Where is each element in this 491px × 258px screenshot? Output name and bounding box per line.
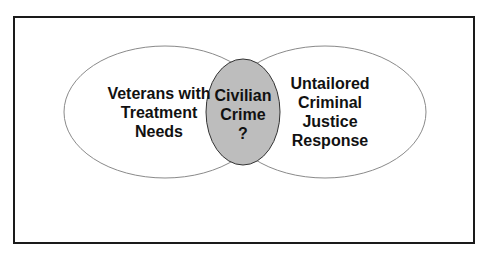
label-line: ?	[203, 124, 283, 143]
label-line: Veterans with	[100, 84, 218, 103]
label-line: Criminal	[275, 93, 385, 112]
label-line: Untailored	[275, 74, 385, 93]
label-line: Civilian	[203, 86, 283, 105]
right-circle-label: Untailored Criminal Justice Response	[275, 74, 385, 150]
label-line: Needs	[100, 122, 218, 141]
intersection-label: Civilian Crime ?	[203, 86, 283, 143]
label-line: Response	[275, 131, 385, 150]
label-line: Crime	[203, 105, 283, 124]
label-line: Justice	[275, 112, 385, 131]
left-circle-label: Veterans with Treatment Needs	[100, 84, 218, 141]
label-line: Treatment	[100, 103, 218, 122]
